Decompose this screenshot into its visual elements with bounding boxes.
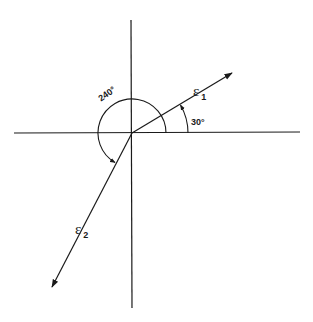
label-epsilon-1: ε1 — [193, 84, 206, 99]
vector-epsilon-1 — [132, 73, 232, 133]
horizontal-axis — [14, 132, 300, 133]
epsilon-2-symbol: ε — [75, 221, 81, 237]
angle-label-30: 30° — [191, 118, 205, 127]
angle-arc-30 — [181, 105, 189, 133]
epsilon-1-symbol: ε — [193, 83, 199, 99]
phasor-diagram — [0, 0, 313, 322]
epsilon-2-subscript: 2 — [83, 230, 88, 240]
label-epsilon-2: ε2 — [75, 222, 88, 237]
vertical-axis — [131, 20, 132, 308]
vector-epsilon-2 — [52, 133, 132, 287]
epsilon-1-subscript: 1 — [201, 92, 206, 102]
